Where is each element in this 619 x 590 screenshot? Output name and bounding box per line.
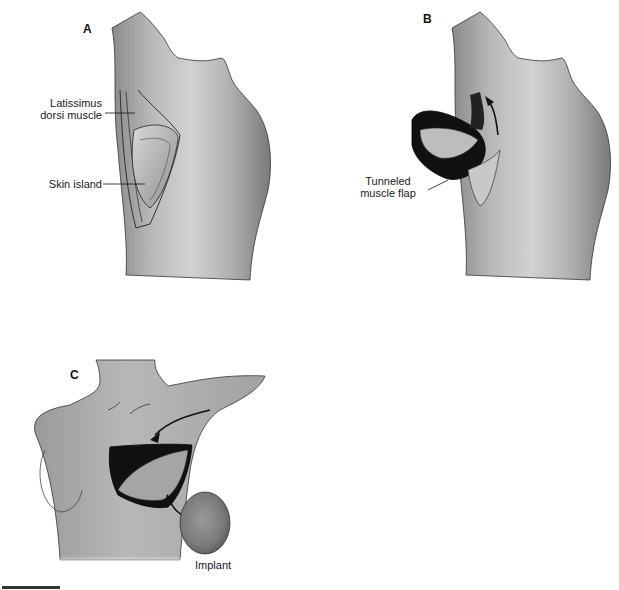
panel-letter-b: B xyxy=(423,12,432,26)
panel-letter-a: A xyxy=(83,22,92,36)
label-latissimus-line1: Latissimus xyxy=(20,97,102,109)
label-skin-island: Skin island xyxy=(30,178,102,190)
panel-c-torso xyxy=(20,360,265,565)
caption-tag xyxy=(2,586,60,589)
panel-a-torso xyxy=(103,12,280,290)
label-tunneled-line2: muscle flap xyxy=(350,187,426,199)
figure-canvas: A B C Latissimus dorsi muscle Skin islan… xyxy=(0,0,619,590)
label-implant: Implant xyxy=(195,559,231,571)
illustration xyxy=(0,0,619,590)
panel-b-torso xyxy=(412,12,619,290)
panel-letter-c: C xyxy=(70,368,79,382)
label-latissimus: Latissimus dorsi muscle xyxy=(20,97,102,121)
label-tunneled-flap: Tunneled muscle flap xyxy=(350,175,426,199)
label-latissimus-line2: dorsi muscle xyxy=(20,109,102,121)
label-tunneled-line1: Tunneled xyxy=(350,175,426,187)
